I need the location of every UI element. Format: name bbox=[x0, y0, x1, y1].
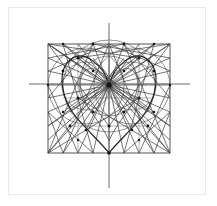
image-canvas bbox=[0, 0, 217, 206]
geometric-figure bbox=[0, 0, 217, 206]
